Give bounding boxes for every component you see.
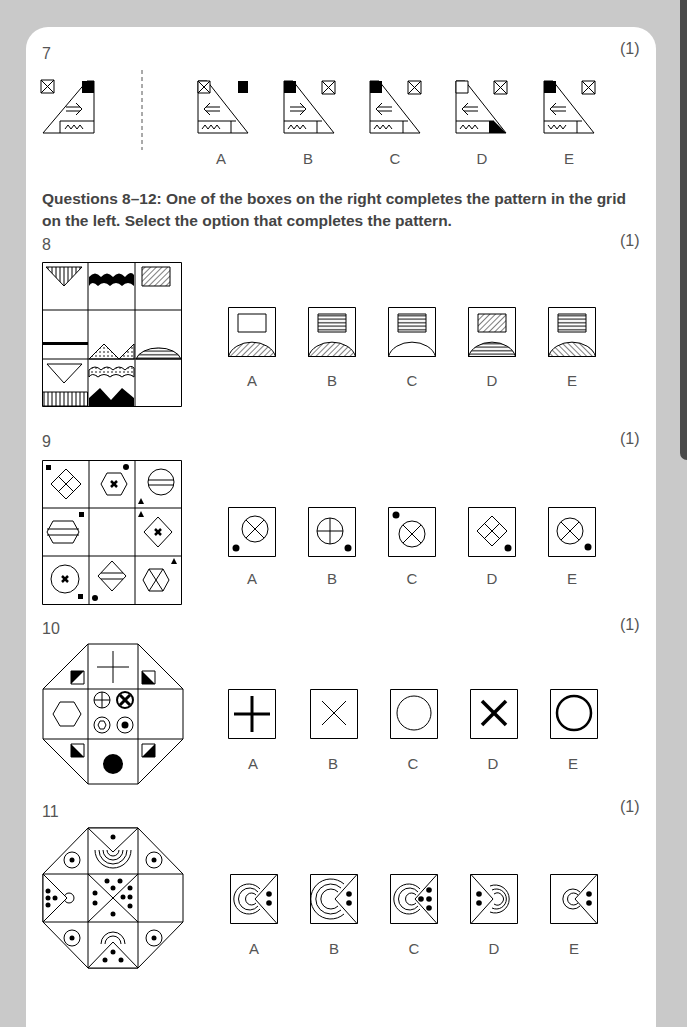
question-11-number: 11	[42, 803, 59, 821]
question-7-number: 7	[42, 45, 51, 63]
q9-label-a: A	[232, 570, 272, 587]
q8-option-b[interactable]	[308, 307, 356, 357]
q8-label-a: A	[232, 372, 272, 389]
q9-grid	[42, 460, 182, 605]
q11-label-b: B	[314, 940, 354, 957]
question-9-number: 9	[42, 433, 51, 451]
q8-label-d: D	[472, 372, 512, 389]
question-8-number: 8	[42, 236, 51, 254]
q11-label-c: C	[394, 940, 434, 957]
instructions-text: Questions 8–12: One of the boxes on the …	[42, 188, 642, 232]
q9-label-b: B	[312, 570, 352, 587]
question-10-marks: (1)	[620, 616, 640, 634]
q7-option-d[interactable]	[454, 78, 510, 136]
q10-label-b: B	[313, 755, 353, 772]
q10-label-a: A	[233, 755, 273, 772]
question-8-marks: (1)	[620, 232, 640, 250]
q7-label-c: C	[375, 150, 415, 167]
q8-label-c: C	[392, 372, 432, 389]
q10-label-d: D	[473, 755, 513, 772]
q8-grid	[42, 262, 182, 407]
q8-label-e: E	[552, 372, 592, 389]
q10-label-e: E	[553, 755, 593, 772]
q8-option-d[interactable]	[468, 307, 516, 357]
question-7-marks: (1)	[620, 40, 640, 58]
q7-label-a: A	[201, 150, 241, 167]
q9-option-d[interactable]	[468, 507, 516, 557]
question-10-number: 10	[42, 620, 60, 638]
q11-option-b[interactable]	[310, 874, 358, 924]
q8-label-b: B	[312, 372, 352, 389]
q11-option-a[interactable]	[230, 874, 278, 924]
q10-option-b[interactable]	[310, 689, 358, 739]
q7-label-d: D	[462, 150, 502, 167]
q10-option-a[interactable]	[228, 689, 276, 739]
q7-option-c[interactable]	[368, 78, 424, 136]
q11-label-d: D	[474, 940, 514, 957]
q7-example-figure	[40, 78, 100, 136]
q10-label-c: C	[393, 755, 433, 772]
q9-label-c: C	[392, 570, 432, 587]
q9-option-a[interactable]	[228, 507, 276, 557]
question-11-marks: (1)	[620, 798, 640, 816]
q10-option-e[interactable]	[550, 689, 598, 739]
q8-option-e[interactable]	[548, 307, 596, 357]
q10-octagon-grid	[42, 643, 184, 785]
q9-option-b[interactable]	[308, 507, 356, 557]
q7-label-e: E	[549, 150, 589, 167]
q7-option-e[interactable]	[542, 78, 598, 136]
q11-label-e: E	[554, 940, 594, 957]
q11-option-d[interactable]	[470, 874, 518, 924]
q8-option-c[interactable]	[388, 307, 436, 357]
q7-label-b: B	[288, 150, 328, 167]
question-9-marks: (1)	[620, 430, 640, 448]
q9-label-e: E	[552, 570, 592, 587]
q7-option-a[interactable]	[196, 78, 252, 136]
divider-dashed	[141, 70, 143, 150]
q9-option-c[interactable]	[388, 507, 436, 557]
q11-label-a: A	[234, 940, 274, 957]
q11-option-c[interactable]	[390, 874, 438, 924]
q7-option-b[interactable]	[282, 78, 338, 136]
q9-option-e[interactable]	[548, 507, 596, 557]
q9-label-d: D	[472, 570, 512, 587]
q10-option-d[interactable]	[470, 689, 518, 739]
q11-octagon-grid	[42, 826, 184, 970]
chapter-tab	[680, 0, 687, 460]
q11-option-e[interactable]	[550, 874, 598, 924]
q10-option-c[interactable]	[390, 689, 438, 739]
q8-option-a[interactable]	[228, 307, 276, 357]
